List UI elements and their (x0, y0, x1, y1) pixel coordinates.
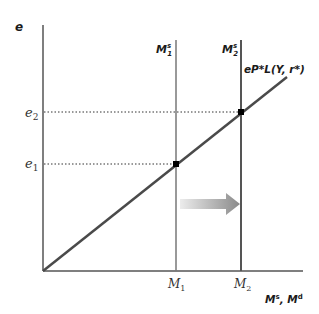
y-axis-label: e (15, 20, 23, 34)
shift-right-arrow-icon (180, 193, 240, 215)
x-axis-label: Ms, Md (265, 293, 303, 305)
money-supply-1-label: Ms1 (156, 42, 172, 58)
money-demand-curve (43, 77, 287, 271)
equilibrium-2-dot (238, 109, 244, 115)
money-market-diagram: e e2 e1 Ms1 Ms2 eP*L(Y, r*) M1 M2 Ms, Md (0, 0, 319, 314)
money-supply-2-label: Ms2 (222, 42, 238, 58)
e2-label: e2 (25, 105, 38, 122)
m1-tick-label: M1 (167, 277, 185, 293)
equilibrium-1-dot (173, 161, 179, 167)
m2-tick-label: M2 (233, 277, 251, 293)
e1-label: e1 (25, 156, 38, 173)
money-demand-curve-label: eP*L(Y, r*) (244, 63, 305, 75)
